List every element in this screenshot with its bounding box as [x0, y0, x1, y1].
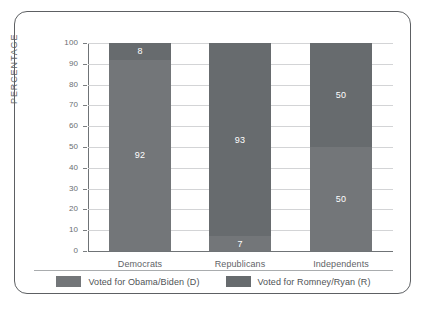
y-tick-label: 80	[18, 81, 78, 89]
y-tick-mark	[83, 209, 87, 210]
bar-segment-romney-ryan[interactable]: 50	[310, 43, 372, 147]
bar-group[interactable]: 928	[109, 43, 171, 251]
legend-swatch-obama-biden	[56, 276, 81, 287]
bar-segment-obama-biden[interactable]: 92	[109, 60, 171, 251]
y-tick-label: 40	[18, 164, 78, 172]
bar-group[interactable]: 793	[209, 43, 271, 251]
bar-segment-romney-ryan[interactable]: 8	[109, 43, 171, 60]
bar-value-label: 92	[109, 150, 171, 160]
y-tick-mark	[83, 251, 87, 252]
bar-value-label: 50	[310, 194, 372, 204]
y-tick-mark	[83, 168, 87, 169]
y-tick-label: 100	[18, 39, 78, 47]
y-tick-label: 30	[18, 185, 78, 193]
bar-segment-obama-biden[interactable]: 50	[310, 147, 372, 251]
y-tick-mark	[83, 64, 87, 65]
y-tick-label: 10	[18, 226, 78, 234]
y-tick-mark	[83, 230, 87, 231]
bar-value-label: 50	[310, 90, 372, 100]
legend-item[interactable]: Voted for Romney/Ryan (R)	[226, 276, 371, 287]
legend-item[interactable]: Voted for Obama/Biden (D)	[56, 276, 199, 287]
y-tick-mark	[83, 147, 87, 148]
y-tick-label: 70	[18, 101, 78, 109]
y-tick-mark	[83, 85, 87, 86]
y-tick-label: 50	[18, 143, 78, 151]
y-tick-label: 0	[18, 247, 78, 255]
x-tick-label: Independents	[286, 259, 396, 269]
y-tick-label: 20	[18, 205, 78, 213]
chart-legend: Voted for Obama/Biden (D) Voted for Romn…	[34, 271, 393, 292]
y-tick-mark	[83, 43, 87, 44]
y-tick-label: 60	[18, 122, 78, 130]
x-axis-baseline	[88, 251, 393, 252]
bar-value-label: 93	[209, 135, 271, 145]
legend-label-romney-ryan: Voted for Romney/Ryan (R)	[258, 277, 371, 287]
bar-segment-romney-ryan[interactable]: 93	[209, 43, 271, 236]
bar-group[interactable]: 5050	[310, 43, 372, 251]
bar-value-label: 7	[209, 239, 271, 249]
x-tick-label: Democrats	[85, 259, 195, 269]
y-tick-mark	[83, 126, 87, 127]
bar-value-label: 8	[109, 46, 171, 56]
bar-segment-obama-biden[interactable]: 7	[209, 236, 271, 251]
chart-figure: PERCENTAGE 1009080706050403020100928Demo…	[14, 11, 411, 294]
x-tick-label: Republicans	[185, 259, 295, 269]
y-tick-label: 90	[18, 60, 78, 68]
plot-area: 1009080706050403020100928Democrats793Rep…	[88, 43, 393, 251]
y-tick-mark	[83, 189, 87, 190]
legend-label-obama-biden: Voted for Obama/Biden (D)	[88, 277, 199, 287]
y-tick-mark	[83, 105, 87, 106]
legend-swatch-romney-ryan	[226, 276, 251, 287]
